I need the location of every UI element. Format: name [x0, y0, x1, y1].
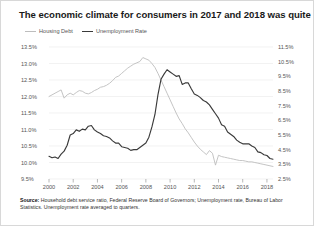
y-axis-left-tick-label: 10.5%: [21, 143, 37, 149]
y-axis-left-tick-label: 13.5%: [21, 44, 37, 50]
series-paths: [49, 58, 273, 167]
y-axis-left-tick-label: 11.5%: [21, 110, 36, 116]
y-axis-right-tick-label: 5.5%: [278, 132, 291, 138]
plot-area: [1, 1, 314, 226]
y-axis-right-tick-label: 3.5%: [278, 161, 291, 167]
y-axis-right-tick-label: 11.5%: [278, 44, 293, 50]
y-axis-left-tick-label: 12.5%: [21, 77, 37, 83]
y-axis-left-tick-label: 9.5%: [21, 176, 34, 182]
y-axis-right-tick-label: 9.5%: [278, 73, 291, 79]
x-tick-marks: [49, 179, 267, 183]
source-note-text: Household debt service ratio, Federal Re…: [20, 197, 283, 210]
plot-svg: [1, 1, 314, 226]
chart-figure: The economic climate for consumers in 20…: [0, 0, 314, 226]
y-axis-right-tick-label: 8.5%: [278, 88, 291, 94]
y-axis-right-tick-label: 2.5%: [278, 176, 291, 182]
source-note: Source: Household debt service ratio, Fe…: [20, 197, 302, 211]
y-axis-right-tick-label: 7.5%: [278, 103, 291, 109]
y-axis-left-tick-label: 11.0%: [21, 127, 36, 133]
y-axis-right-tick-label: 10.5%: [278, 59, 294, 65]
y-axis-left-tick-label: 13.0%: [21, 61, 37, 67]
y-axis-right-tick-label: 6.5%: [278, 117, 291, 123]
source-note-prefix: Source:: [20, 197, 39, 203]
gridlines: [49, 47, 273, 179]
x-axis-tick-label: 2018: [252, 184, 282, 190]
y-axis-right-tick-label: 4.5%: [278, 147, 291, 153]
y-axis-left-tick-label: 10.0%: [21, 160, 37, 166]
series-line-housing-debt: [49, 58, 273, 167]
y-axis-left-tick-label: 12.0%: [21, 94, 37, 100]
